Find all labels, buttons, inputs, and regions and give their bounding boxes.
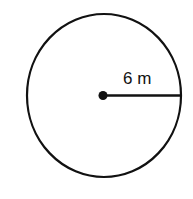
circle-diagram: 6 m (0, 0, 193, 199)
center-point (99, 91, 108, 100)
radius-label: 6 m (123, 69, 151, 88)
